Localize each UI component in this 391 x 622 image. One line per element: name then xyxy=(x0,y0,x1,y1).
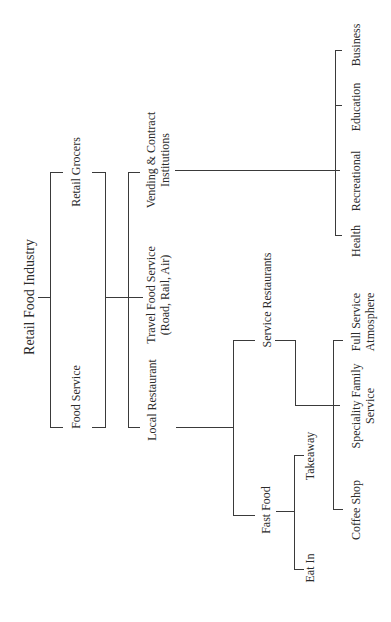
node-retail-grocers: Retail Grocers xyxy=(69,137,83,207)
node-eat-in: Eat In xyxy=(303,554,317,583)
connector-local-stub xyxy=(176,427,234,428)
connector-fastfood-spine xyxy=(294,455,295,570)
node-food-service: Food Service xyxy=(69,365,83,429)
connector-service-drop xyxy=(295,340,296,406)
node-service-restaurants: Service Restaurants xyxy=(260,253,274,348)
connector-fastfood-right xyxy=(276,511,294,512)
connector-foodservice-right xyxy=(92,427,105,428)
connector-fullservice-tick xyxy=(333,340,343,341)
node-travel-food-service: Travel Food Service (Road, Rail, Air) xyxy=(144,246,172,344)
connector-fastfood-tick xyxy=(233,515,255,516)
connector-level1-top-tick xyxy=(50,172,63,173)
fullservice-line1: Full Service xyxy=(349,293,363,352)
node-health: Health xyxy=(349,225,363,257)
node-recreational: Recreational xyxy=(349,151,363,212)
connector-business-tick xyxy=(335,50,342,51)
node-business: Business xyxy=(349,24,363,67)
node-full-service-atmosphere: Full Service Atmosphere xyxy=(349,293,377,352)
connector-level2-bottom-tick xyxy=(128,427,140,428)
speciality-line1: Speciality Family xyxy=(349,364,363,449)
travel-line1: Travel Food Service xyxy=(144,246,158,344)
node-education: Education xyxy=(349,83,363,132)
connector-level2-spine xyxy=(128,172,129,428)
connector-level1-bottom-tick xyxy=(50,427,63,428)
connector-health-tick xyxy=(335,235,342,236)
vending-line2: Institutions xyxy=(158,112,172,209)
connector-institutions-spine xyxy=(335,50,336,236)
connector-vending-to-institutions xyxy=(175,170,340,171)
connector-level1-right-spine xyxy=(105,172,106,428)
connector-education-tick xyxy=(335,105,342,106)
root-node-retail-food-industry: Retail Food Industry xyxy=(22,239,38,355)
connector-grocers-right xyxy=(92,172,105,173)
node-speciality-family-service: Speciality Family Service xyxy=(349,364,377,449)
speciality-line2: Service xyxy=(363,364,377,449)
fullservice-line2: Atmosphere xyxy=(363,293,377,352)
connector-service-right xyxy=(275,340,295,341)
connector-service-tick xyxy=(233,340,255,341)
node-coffee-shop: Coffee Shop xyxy=(349,480,363,540)
connector-local-spine xyxy=(233,340,234,516)
connector-level2-top-tick xyxy=(128,172,140,173)
node-local-restaurant: Local Restaurant xyxy=(145,359,159,441)
node-takeaway: Takeaway xyxy=(303,432,317,480)
travel-line2: (Road, Rail, Air) xyxy=(158,246,172,344)
node-vending-contract-institutions: Vending & Contract Institutions xyxy=(144,112,172,209)
connector-level1-spine xyxy=(50,172,51,428)
node-fast-food: Fast Food xyxy=(259,486,273,534)
vending-line1: Vending & Contract xyxy=(144,112,158,209)
retail-food-industry-tree-diagram: Retail Food Industry Retail Grocers Food… xyxy=(0,0,391,622)
connector-service-types-spine xyxy=(333,340,334,510)
connector-level2-stub xyxy=(105,297,143,298)
connector-coffeeshop-tick xyxy=(333,509,343,510)
